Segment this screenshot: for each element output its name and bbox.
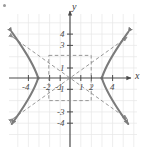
y-tick-label-neg1: -1 (57, 85, 65, 94)
x-tick-label-pos1: 1 (79, 83, 84, 92)
x-tick-label-neg2: -2 (43, 83, 51, 92)
vertex-right (100, 77, 103, 80)
x-tick-label-neg4: -4 (22, 83, 30, 92)
x-tick-label-pos2: 2 (89, 83, 94, 92)
y-tick-label-neg4: -4 (57, 119, 65, 128)
graph-canvas (0, 0, 145, 157)
y-tick-label-neg3: -3 (57, 108, 65, 117)
hyperbola-figure: -4 -2 -1 1 2 4 4 3 1 -1 -3 -4 x y (0, 0, 145, 157)
y-axis-label: y (72, 2, 76, 12)
x-axis-label: x (135, 71, 139, 81)
vertex-left (37, 77, 40, 80)
x-tick-label-pos4: 4 (110, 83, 115, 92)
y-tick-label-pos4: 4 (60, 30, 65, 39)
y-tick-label-pos1: 1 (60, 64, 65, 73)
y-tick-label-pos3: 3 (60, 41, 65, 50)
